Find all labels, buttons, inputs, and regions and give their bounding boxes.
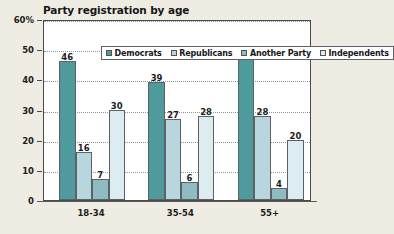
legend-label: Democrats bbox=[115, 49, 162, 58]
y-tick-mark bbox=[37, 111, 42, 112]
bar bbox=[271, 188, 288, 200]
y-tick-mark bbox=[37, 171, 42, 172]
y-tick-label: 10 bbox=[22, 166, 34, 176]
legend-item[interactable]: Republicans bbox=[171, 49, 233, 58]
bar-value-label: 30 bbox=[111, 101, 123, 111]
y-tick-mark bbox=[37, 80, 42, 81]
bar bbox=[181, 182, 198, 200]
x-axis: 18-3435-5455+ bbox=[43, 205, 311, 221]
bar bbox=[148, 82, 165, 200]
bar-value-label: 7 bbox=[97, 170, 103, 180]
y-tick-label: 50 bbox=[22, 45, 34, 55]
legend-label: Another Party bbox=[250, 49, 311, 58]
plot-area: 461673039276284828420 DemocratsRepublica… bbox=[43, 20, 311, 201]
x-tick-label: 18-34 bbox=[77, 208, 104, 218]
legend-item[interactable]: Another Party bbox=[241, 49, 311, 58]
bar bbox=[165, 119, 182, 200]
bar-value-label: 20 bbox=[289, 131, 301, 141]
legend-swatch-icon bbox=[106, 50, 112, 56]
legend-swatch-icon bbox=[241, 50, 247, 56]
legend-swatch-icon bbox=[320, 50, 326, 56]
bar-value-label: 46 bbox=[61, 52, 73, 62]
y-tick-label: 20 bbox=[22, 136, 34, 146]
chart-title: Party registration by age bbox=[43, 4, 189, 16]
bar bbox=[109, 110, 126, 201]
bar-value-label: 39 bbox=[151, 73, 163, 83]
bar-value-label: 28 bbox=[200, 107, 212, 117]
y-tick-label: 30 bbox=[22, 106, 34, 116]
x-tick-label: 35-54 bbox=[167, 208, 194, 218]
chart-legend: DemocratsRepublicansAnother PartyIndepen… bbox=[101, 46, 394, 60]
bar-value-label: 6 bbox=[187, 173, 193, 183]
bar-value-label: 4 bbox=[276, 179, 282, 189]
x-axis-line bbox=[37, 201, 317, 202]
y-axis: 0102030405060% bbox=[0, 20, 40, 201]
x-tick-label: 55+ bbox=[260, 208, 279, 218]
bar bbox=[59, 61, 76, 200]
legend-item[interactable]: Democrats bbox=[106, 49, 162, 58]
y-tick-label: 60% bbox=[14, 15, 34, 25]
legend-label: Republicans bbox=[179, 49, 232, 58]
y-tick-mark bbox=[37, 20, 42, 21]
legend-swatch-icon bbox=[171, 50, 177, 56]
y-tick-mark bbox=[37, 141, 42, 142]
bar bbox=[238, 55, 255, 200]
bar bbox=[198, 116, 215, 200]
y-tick-label: 0 bbox=[28, 196, 34, 206]
bar bbox=[287, 140, 304, 200]
y-tick-label: 40 bbox=[22, 75, 34, 85]
y-tick-mark bbox=[37, 50, 42, 51]
bar-value-label: 27 bbox=[167, 110, 179, 120]
legend-label: Independents bbox=[329, 49, 389, 58]
bar-value-label: 16 bbox=[78, 143, 90, 153]
bar-value-label: 28 bbox=[256, 107, 268, 117]
bar bbox=[254, 116, 271, 200]
bar bbox=[92, 179, 109, 200]
bar bbox=[76, 152, 93, 200]
legend-item[interactable]: Independents bbox=[320, 49, 389, 58]
